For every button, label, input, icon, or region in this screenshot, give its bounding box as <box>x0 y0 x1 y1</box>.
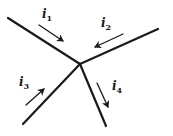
wire-2 <box>80 29 158 64</box>
current-label-1: i1 <box>42 8 52 22</box>
current-label-2: i2 <box>101 17 111 31</box>
current-arrow-1-icon <box>39 25 63 41</box>
wire-3 <box>23 64 80 124</box>
current-arrow-2-icon <box>95 34 123 47</box>
current-arrow-4-icon <box>97 83 108 107</box>
current-subscript: 4 <box>117 85 123 95</box>
current-subscript: 1 <box>47 13 53 23</box>
branch-4 <box>80 64 108 126</box>
wire-1 <box>8 18 80 64</box>
current-junction-diagram <box>0 0 173 136</box>
branch-1 <box>8 18 80 64</box>
branch-3 <box>23 64 80 124</box>
current-subscript: 2 <box>106 22 112 32</box>
current-label-4: i4 <box>112 80 122 94</box>
branch-2 <box>80 29 158 64</box>
current-label-3: i3 <box>19 76 29 90</box>
current-subscript: 3 <box>24 81 30 91</box>
current-arrow-3-icon <box>26 89 44 105</box>
